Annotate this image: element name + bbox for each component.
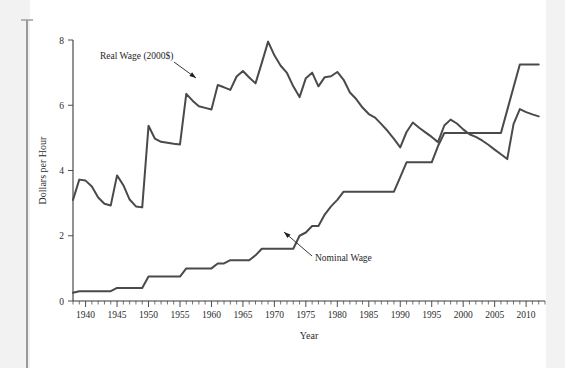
x-tick-label: 2010 <box>517 310 536 320</box>
y-axis-title: Dollars per Hour <box>37 136 48 204</box>
chart-figure: 02468 1940194519501955196019651970197519… <box>0 0 565 368</box>
series-real-wage <box>73 42 539 208</box>
x-tick-label: 1985 <box>359 310 378 320</box>
y-tick-label: 8 <box>59 36 64 46</box>
x-tick-label: 1995 <box>422 310 441 320</box>
x-tick-label: 1965 <box>233 310 252 320</box>
x-tick-label: 1975 <box>296 310 315 320</box>
x-axis-title: Year <box>300 330 319 341</box>
x-tick-label: 1980 <box>328 310 347 320</box>
x-tick-label: 1950 <box>139 310 158 320</box>
x-tick-label: 1960 <box>202 310 221 320</box>
x-tick-label: 1955 <box>170 310 189 320</box>
y-axis-ticks: 02468 <box>59 36 73 307</box>
chart-annotations: Real Wage (2000$)Nominal Wage <box>100 51 372 263</box>
x-tick-label: 1990 <box>391 310 410 320</box>
x-tick-label: 1940 <box>76 310 95 320</box>
annotation-label: Real Wage (2000$) <box>100 51 173 62</box>
x-tick-label: 2000 <box>454 310 473 320</box>
series-nominal-wage <box>73 64 539 292</box>
x-tick-label: 1970 <box>265 310 284 320</box>
annotation-arrowhead <box>189 72 196 78</box>
y-tick-label: 2 <box>59 231 64 241</box>
x-axis-ticks: 1940194519501955196019651970197519801985… <box>73 301 545 320</box>
y-tick-label: 0 <box>59 297 64 307</box>
y-tick-label: 6 <box>59 101 64 111</box>
x-tick-label: 1945 <box>108 310 127 320</box>
annotation-label: Nominal Wage <box>315 253 372 263</box>
x-tick-label: 2005 <box>485 310 504 320</box>
chart-svg: 02468 1940194519501955196019651970197519… <box>0 0 565 368</box>
y-tick-label: 4 <box>59 166 64 176</box>
